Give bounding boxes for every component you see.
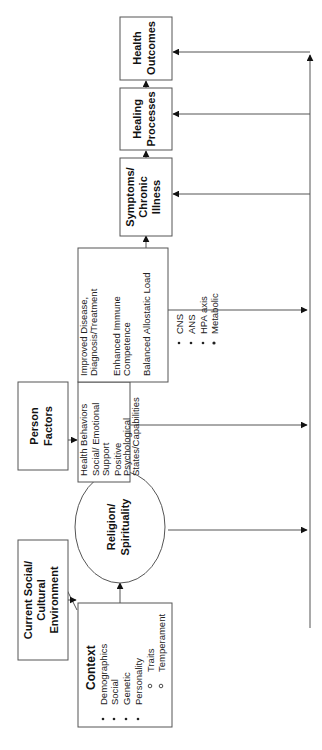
person-factors-line-1: Person [28,407,40,445]
context-subitem-traits: Traits [145,648,156,672]
bullet-icon [102,718,105,721]
symptoms-line-1: Symptoms/ [124,167,136,226]
bullet-icon [178,342,181,345]
environment-line-2: Cultural [35,579,47,621]
bullet-icon [137,718,140,721]
pathways-box: Improved Disease, Diagnosis/Treatment En… [78,248,220,382]
healing-line-1: Healing [131,99,143,139]
environment-line-1: Current Social/ [22,561,34,639]
environment-line-3: Environment [48,566,60,634]
context-item-demographics: Demographics [98,644,109,705]
allostatic-metabolic: Metabolic [209,293,220,334]
person-factors-line-2: Factors [42,406,54,446]
mediator-social-support-2: Support [100,442,111,476]
bullet-icon [190,342,193,345]
symptoms-box: Symptoms/ Chronic Illness [120,158,172,236]
healing-box: Healing Processes [120,88,172,150]
allostatic-cns: CNS [174,314,185,334]
bullet-icon [202,342,205,345]
mediator-positive-3: States/Capabilities [130,397,141,476]
religion-ellipse: Religion/ Spirituality [75,471,165,583]
pathway-disease-2: Diagnosis/Treatment [88,288,99,376]
bullet-icon [212,341,215,344]
pathway-allostatic: Balanced Allostatic Load [141,272,152,376]
context-box: Context Demographics Social Genetic Pers… [78,603,172,727]
healing-line-2: Processes [145,91,157,146]
bullet-icon [113,718,116,721]
outcomes-line-1: Health [131,31,143,65]
religion-line-1: Religion/ [105,504,117,550]
context-item-social: Social [109,679,120,705]
pathway-immune-2: Competence [121,322,132,376]
context-title: Context [84,645,98,690]
person-factors-box: Person Factors [18,382,68,470]
context-item-genetic: Genetic [121,672,132,705]
outcomes-line-2: Outcomes [145,21,157,75]
symptoms-line-2: Chronic [137,176,149,218]
mediators-box: Health Behaviors Social/ Emotional Suppo… [78,382,141,482]
religion-health-model-diagram: Context Demographics Social Genetic Pers… [0,0,322,750]
allostatic-ans: ANS [186,314,197,334]
mediator-health-behaviors: Health Behaviors [78,403,89,476]
context-item-personality: Personality [133,658,144,705]
religion-line-2: Spirituality [119,498,131,556]
bullet-icon [125,718,128,721]
allostatic-hpa: HPA axis [198,296,209,334]
outcomes-box: Health Outcomes [120,17,172,80]
environment-box: Current Social/ Cultural Environment [18,540,68,660]
context-subitem-temperament: Temperament [156,614,167,672]
symptoms-line-3: Illness [150,180,162,214]
